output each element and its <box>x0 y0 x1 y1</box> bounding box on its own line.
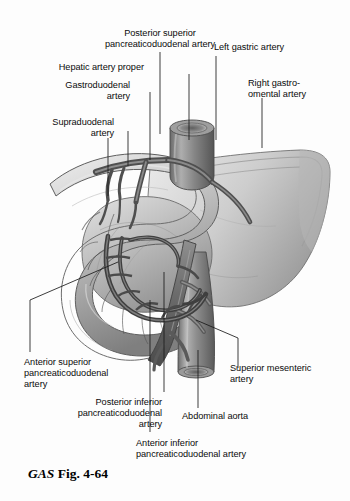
figure-caption: GAS Fig. 4-64 <box>28 466 108 482</box>
anatomy-figure: Posterior superior pancreaticoduodenal a… <box>0 0 350 501</box>
label-anterior-superior-pancreaticoduodenal-artery: Anterior superior pancreaticoduodenal ar… <box>24 357 154 391</box>
caption-number: Fig. 4-64 <box>58 466 108 481</box>
label-superior-mesenteric-artery: Superior mesenteric artery <box>230 363 348 385</box>
label-anterior-inferior-pancreaticoduodenal-artery: Anterior inferior pancreaticoduodenal ar… <box>136 438 304 460</box>
label-abdominal-aorta: Abdominal aorta <box>182 411 294 422</box>
label-gastroduodenal-artery: Gastroduodenal artery <box>8 80 130 102</box>
label-supraduodenal-artery: Supraduodenal artery <box>8 117 114 139</box>
label-hepatic-artery-proper: Hepatic artery proper <box>8 62 144 73</box>
label-right-gastro-omental-artery: Right gastro- omental artery <box>248 78 348 100</box>
caption-source: GAS <box>28 466 54 481</box>
label-posterior-inferior-pancreaticoduodenal-artery: Posterior inferior pancreaticoduodenal a… <box>34 397 162 431</box>
label-left-gastric-artery: Left gastric artery <box>214 42 334 53</box>
